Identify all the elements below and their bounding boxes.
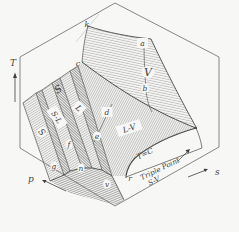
floor-annotations: T=C Triple Point S-V — [135, 146, 190, 188]
axis-p-label: p — [28, 174, 34, 184]
axis-T-arrowhead — [13, 73, 17, 79]
axis-s: s — [188, 167, 220, 177]
axis-s-arrow — [188, 170, 206, 177]
axis-T-label: T — [10, 58, 17, 68]
triple-line-end-dot — [195, 127, 197, 129]
point-a-label: a — [140, 39, 144, 48]
phase-surface-svg: T p s V L-V S-L L S S — [0, 0, 239, 232]
triple-point-arrow — [178, 151, 188, 161]
phase-surface-figure: T p s V L-V S-L L S S — [0, 0, 239, 232]
point-d-label: d — [105, 108, 110, 117]
point-r-dot — [125, 176, 127, 178]
point-k-label: k — [85, 20, 90, 29]
axis-s-label: s — [215, 167, 220, 177]
point-n-label: n — [79, 164, 84, 173]
point-e-label: e — [95, 132, 100, 141]
triple-point-label: Triple Point — [139, 155, 181, 182]
axis-T: T — [10, 58, 17, 102]
point-c-label: c — [76, 59, 81, 68]
point-r-label: r — [128, 174, 132, 183]
point-g-label: g — [52, 162, 57, 171]
point-b-label: b — [143, 84, 148, 93]
region-vapor-label: V — [144, 66, 153, 79]
